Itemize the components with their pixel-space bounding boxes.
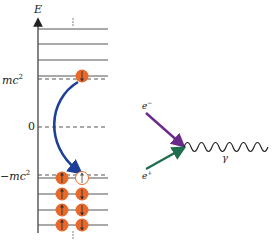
positron-label-sup: + xyxy=(147,169,152,176)
electron-label: e− xyxy=(142,100,152,111)
transition-arrow xyxy=(54,82,78,170)
electron-label-sup: − xyxy=(147,99,152,106)
photon-label: γ xyxy=(222,153,228,163)
upper-energy-levels xyxy=(38,29,108,76)
sea-electron-up xyxy=(56,172,69,185)
lower-energy-levels xyxy=(38,178,108,225)
positron-label: e+ xyxy=(142,170,152,181)
electron-line xyxy=(146,113,180,143)
feynman-diagram xyxy=(146,113,268,169)
photon-wavy-line xyxy=(184,143,268,152)
sea-electron-down xyxy=(76,219,89,232)
energy-axis-label: E xyxy=(34,4,42,15)
neg-mc2-label-sup: 2 xyxy=(26,169,30,177)
continuation-dots-top xyxy=(72,18,73,25)
excited-electron xyxy=(76,70,89,83)
zero-label: 0 xyxy=(28,121,35,132)
mc2-label-text: mc xyxy=(2,74,19,87)
mc2-label: mc2 xyxy=(2,74,23,86)
sea-electron-down xyxy=(76,204,89,217)
sea-electron-up xyxy=(56,204,69,217)
continuation-dots-bottom xyxy=(72,231,73,238)
positron-line xyxy=(146,150,180,169)
neg-mc2-label-text: −mc xyxy=(0,170,26,183)
sea-electron-up xyxy=(56,188,69,201)
sea-electron-down xyxy=(76,188,89,201)
positron-hole xyxy=(76,172,89,185)
mc2-label-sup: 2 xyxy=(19,73,23,81)
dirac-sea-diagram xyxy=(0,0,272,248)
sea-electron-up xyxy=(56,219,69,232)
neg-mc2-label: −mc2 xyxy=(0,170,30,182)
